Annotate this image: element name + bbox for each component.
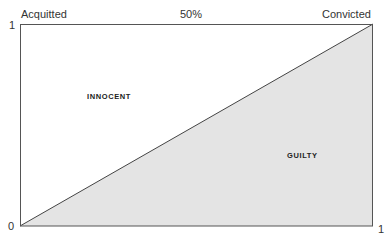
guilty-region-label: GUILTY bbox=[287, 151, 318, 160]
innocent-region-label: INNOCENT bbox=[87, 92, 131, 101]
acquitted-label: Acquitted bbox=[21, 8, 67, 20]
fifty-percent-label: 50% bbox=[180, 8, 202, 20]
convicted-label: Convicted bbox=[322, 8, 371, 20]
plot-area bbox=[0, 0, 388, 238]
y-axis-tick-zero: 0 bbox=[8, 220, 14, 232]
x-axis-tick-one: 1 bbox=[378, 223, 384, 235]
y-axis-tick-one: 1 bbox=[9, 19, 15, 31]
